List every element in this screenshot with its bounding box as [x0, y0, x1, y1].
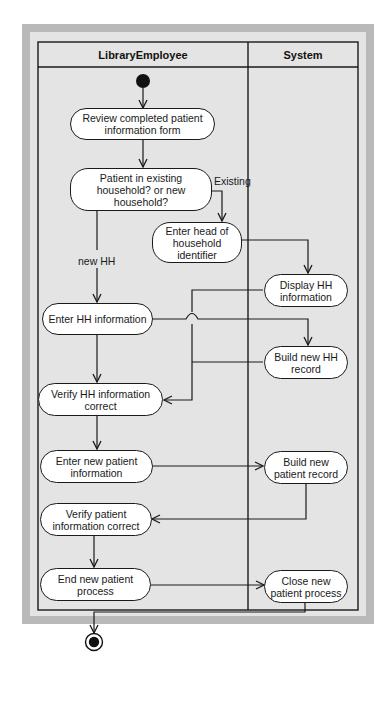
swimlane-title-employee: LibraryEmployee — [38, 42, 248, 67]
node-enter-hh-info: Enter HH information — [42, 303, 153, 335]
node-enter-patient-info: Enter new patient information — [40, 450, 153, 483]
edge-label-new-hh: new HH — [78, 255, 115, 267]
node-review-form: Review completed patient information for… — [70, 108, 215, 140]
node-end-patient-process: End new patient process — [40, 568, 151, 601]
edge-label-existing: Existing — [214, 175, 251, 187]
node-build-hh-record: Build new HH record — [264, 346, 348, 379]
node-enter-head-of-household: Enter head of household identifier — [152, 222, 242, 263]
node-display-hh-info: Display HH information — [264, 274, 348, 307]
node-verify-patient-info: Verify patient information correct — [40, 503, 152, 536]
initial-node-icon — [136, 74, 150, 88]
swimlane-title-system: System — [248, 42, 358, 67]
node-household-decision: Patient in existing household? or new ho… — [70, 168, 212, 211]
node-build-patient-record: Build new patient record — [264, 451, 348, 484]
node-close-patient-process: Close new patient process — [264, 570, 348, 603]
node-verify-hh-info: Verify HH information correct — [38, 383, 163, 416]
